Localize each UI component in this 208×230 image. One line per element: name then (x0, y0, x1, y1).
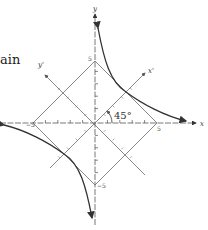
tick-label-y-neg: −5 (97, 182, 106, 189)
tick-label-x-pos: 5 (157, 125, 161, 132)
y-prime-label: y' (37, 61, 44, 69)
rotated-axes-diagram: x y x' y' 45° 5 −5 5 −5 (0, 0, 208, 230)
tick-label-x-neg: −5 (26, 121, 35, 128)
x-axis-label: x (200, 120, 204, 128)
y-axis-label: y (92, 5, 98, 13)
tick-label-y-pos: 5 (88, 55, 92, 62)
angle-label: 45° (114, 110, 132, 121)
x-prime-label: x' (148, 67, 154, 75)
